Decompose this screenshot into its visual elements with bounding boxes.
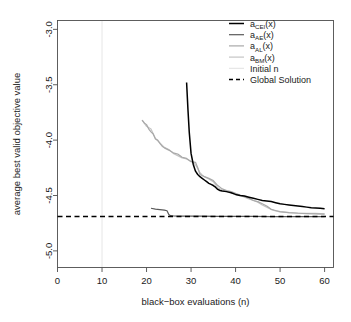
y-axis-label: average best valid objective value [11, 73, 22, 216]
x-axis-label: black−box evaluations (n) [142, 296, 250, 307]
chart-figure: -3.0-3.5-4.0-4.5-5.00102030405060black−b… [0, 0, 351, 322]
series-line-aalx [142, 120, 325, 214]
x-tick-label: 10 [97, 275, 108, 286]
series-line-aceix [187, 83, 325, 209]
y-tick-label: -4.0 [43, 132, 54, 148]
legend-label: aAL(x) [250, 41, 273, 52]
legend-label: aAE(x) [250, 30, 274, 41]
x-tick-label: 50 [275, 275, 286, 286]
x-tick-label: 60 [319, 275, 330, 286]
plot-box [58, 21, 334, 268]
x-tick-label: 30 [186, 275, 197, 286]
x-tick-label: 20 [141, 275, 152, 286]
series-line-aaex [151, 208, 325, 216]
x-tick-label: 0 [55, 275, 60, 286]
x-tick-label: 40 [230, 275, 241, 286]
y-tick-label: -4.5 [43, 187, 54, 203]
line-chart: -3.0-3.5-4.0-4.5-5.00102030405060black−b… [0, 0, 351, 322]
y-tick-label: -3.5 [43, 77, 54, 93]
legend-label: aBM(x) [250, 53, 275, 64]
legend-label: Initial n [250, 64, 279, 74]
y-tick-label: -3.0 [43, 21, 54, 37]
series-line-abmx [142, 120, 325, 214]
y-tick-label: -5.0 [43, 243, 54, 259]
legend-label: Global Solution [250, 75, 311, 85]
